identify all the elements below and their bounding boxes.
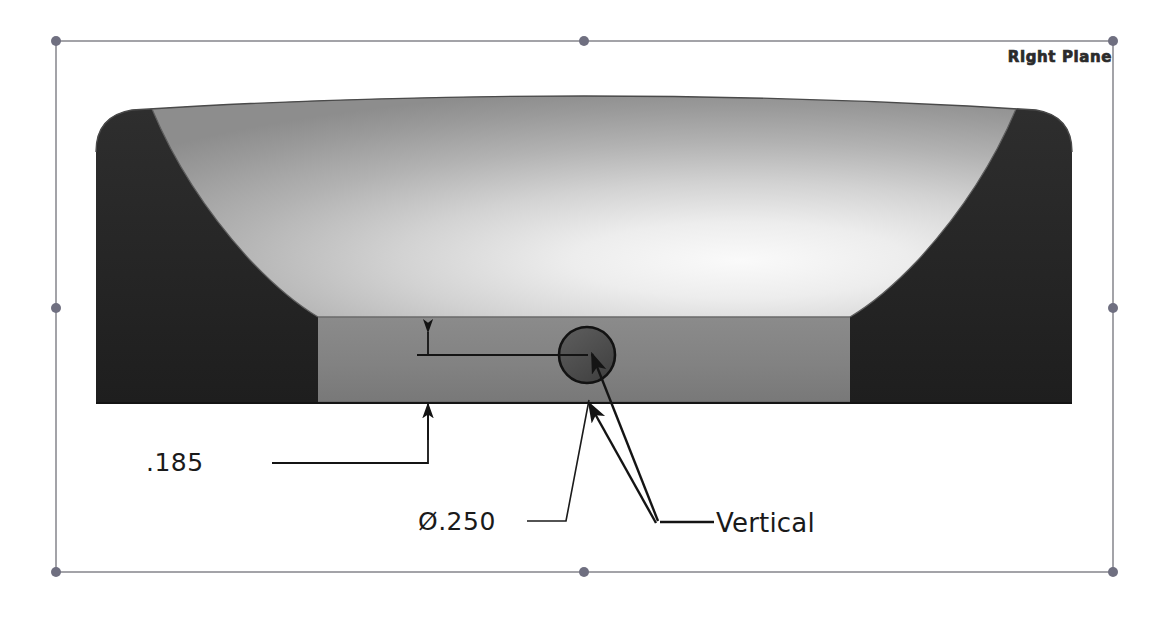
leader-250-path[interactable] [527, 400, 589, 521]
sketch-point-corner-top-right[interactable] [1108, 36, 1118, 46]
cad-viewport[interactable]: Right Plane .185 Ø.250 Vertical [0, 0, 1168, 628]
sketch-point-midpoint-bottom[interactable] [579, 567, 589, 577]
plane-label-right-plane[interactable]: Right Plane [1008, 48, 1112, 66]
sketch-point-corner-bottom-left[interactable] [51, 567, 61, 577]
sketch-point-midpoint-left[interactable] [51, 303, 61, 313]
relation-label-vertical[interactable]: Vertical [716, 508, 815, 538]
leader-185-path[interactable] [272, 409, 428, 463]
cad-drawing-canvas[interactable] [0, 0, 1168, 628]
sketch-point-corner-bottom-right[interactable] [1108, 567, 1118, 577]
sketch-point-midpoint-right[interactable] [1108, 303, 1118, 313]
sketch-point-midpoint-top[interactable] [579, 36, 589, 46]
dimension-185-leader[interactable] [272, 404, 428, 463]
sketch-point-corner-top-left[interactable] [51, 36, 61, 46]
dimension-value-250[interactable]: Ø.250 [418, 507, 496, 536]
dimension-value-185[interactable]: .185 [146, 448, 204, 477]
dimension-250-leader[interactable] [527, 400, 589, 521]
vertical-leader-arrow-to-base-point [589, 403, 656, 523]
